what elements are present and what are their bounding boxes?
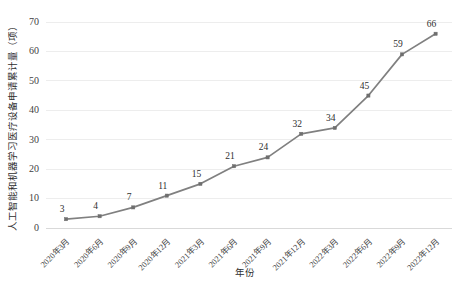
data-point-marker	[165, 194, 168, 197]
data-point-label: 45	[360, 81, 370, 91]
data-point-label: 11	[158, 181, 167, 191]
y-axis-tick-label: 10	[29, 192, 39, 203]
y-axis-tick-label: 70	[29, 16, 39, 27]
data-point-marker	[232, 165, 235, 168]
line-chart: 010203040506070 347111521243234455966 20…	[0, 0, 468, 296]
data-point-label: 24	[259, 142, 269, 152]
data-point-label: 32	[292, 119, 302, 129]
y-axis-tick-label: 60	[29, 45, 39, 56]
data-point-label: 66	[427, 19, 437, 29]
data-point-marker	[333, 126, 336, 129]
y-axis-tick-label: 30	[29, 134, 39, 145]
data-point-marker	[64, 218, 67, 221]
data-point-marker	[400, 53, 403, 56]
data-point-marker	[434, 32, 437, 35]
data-point-label: 15	[192, 169, 202, 179]
data-point-label: 7	[127, 192, 132, 202]
data-point-marker	[300, 132, 303, 135]
data-point-label: 59	[393, 39, 403, 49]
y-axis-title: 人工智能和机器学习医疗设备申请累计量（项）	[7, 21, 18, 231]
y-axis-tick-label: 20	[29, 163, 39, 174]
data-point-label: 34	[326, 113, 336, 123]
chart-canvas: 010203040506070 347111521243234455966 20…	[0, 0, 468, 296]
x-axis-title: 年份	[235, 267, 255, 278]
data-point-label: 21	[225, 151, 235, 161]
data-point-label: 3	[60, 204, 65, 214]
y-axis-tick-label: 0	[34, 222, 39, 233]
y-axis-tick-label: 50	[29, 75, 39, 86]
data-point-marker	[98, 215, 101, 218]
data-point-label: 4	[93, 201, 98, 211]
data-point-marker	[199, 182, 202, 185]
data-point-marker	[367, 94, 370, 97]
data-point-marker	[266, 156, 269, 159]
y-axis-tick-label: 40	[29, 104, 39, 115]
data-point-marker	[132, 206, 135, 209]
